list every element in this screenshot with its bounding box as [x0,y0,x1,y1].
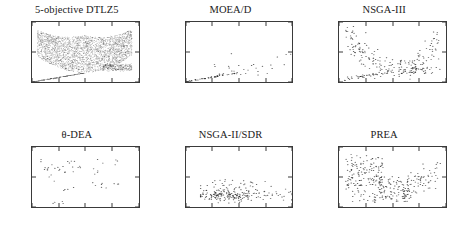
x-tick-mark [365,78,366,82]
x-tick-mark-top [212,147,213,151]
x-tick-mark [185,203,186,207]
scatter-series-theta-dea [32,147,139,207]
x-tick-mark [339,203,340,207]
x-tick-mark-top [419,22,420,26]
x-tick-mark [212,78,213,82]
x-tick-mark [212,203,213,207]
x-tick-mark [446,78,447,82]
x-tick-mark-top [238,147,239,151]
y-tick-mark-right [135,52,139,53]
x-tick-mark [185,78,186,82]
x-tick-mark [265,203,266,207]
plot-panel-theta-dea: θ-DEA 02400.20.40.60.8f1f4 [0,125,154,250]
y-tick-mark [339,82,343,83]
x-tick-mark-top [111,147,112,151]
y-tick-mark [339,177,343,178]
plot-axes-dtlz5-reference: 02400.20.40.60.8f1f4 [31,21,140,83]
y-tick-mark-right [288,52,292,53]
plot-panel-prea: PREA 02400.20.40.60.8f1f4 [307,125,461,250]
plot-axes-moead: 02400.20.40.60.8f1f4 [185,21,294,83]
x-tick-mark-top [85,147,86,151]
x-tick-mark-top [32,147,33,151]
plot-panel-nsga2-sdr: NSGA-II/SDR 02400.20.40.60.8f1f4 [154,125,308,250]
x-tick-mark [292,78,293,82]
panel-title-dtlz5-reference: 5-objective DTLZ5 [0,4,154,15]
x-tick-mark [419,203,420,207]
y-tick-mark [339,207,343,208]
scatter-canvas-dtlz5-reference [32,22,139,82]
x-tick-mark-top [419,147,420,151]
panel-title-moead: MOEA/D [154,4,308,15]
plot-axes-nsga2-sdr: 02400.20.40.60.8f1f4 [185,146,294,208]
scatter-series-moead [186,22,293,82]
x-tick-mark-top [265,147,266,151]
y-tick-mark [339,22,343,23]
x-tick-mark-top [392,22,393,26]
x-tick-mark-top [185,22,186,26]
x-tick-mark [32,78,33,82]
panel-title-nsga2-sdr: NSGA-II/SDR [154,129,308,140]
panel-title-nsga3: NSGA-III [307,4,461,15]
y-tick-mark [186,22,190,23]
plot-panel-dtlz5-reference: 5-objective DTLZ5 02400.20.40.60.8f1f4 [0,0,154,125]
y-tick-mark [32,82,36,83]
x-tick-mark [85,78,86,82]
x-tick-mark [292,203,293,207]
scatter-series-dtlz5-reference [32,22,139,82]
x-tick-mark-top [365,22,366,26]
x-tick-mark [238,78,239,82]
plot-panel-moead: MOEA/D 02400.20.40.60.8f1f4 [154,0,308,125]
x-tick-mark [58,203,59,207]
scatter-series-nsga2-sdr [186,147,293,207]
x-tick-mark [85,203,86,207]
y-tick-mark-right [442,52,446,53]
x-tick-mark [446,203,447,207]
x-tick-mark [392,203,393,207]
x-tick-mark [238,203,239,207]
x-tick-mark [138,203,139,207]
scatter-canvas-nsga2-sdr [186,147,293,207]
x-tick-mark-top [138,147,139,151]
scatter-canvas-prea [339,147,446,207]
x-tick-mark-top [212,22,213,26]
x-tick-mark-top [265,22,266,26]
x-tick-mark-top [365,147,366,151]
y-tick-mark [32,52,36,53]
x-tick-mark-top [392,147,393,151]
y-tick-mark [186,177,190,178]
y-tick-mark [186,147,190,148]
x-tick-mark [365,203,366,207]
x-tick-mark-top [238,22,239,26]
y-tick-mark [32,22,36,23]
x-tick-mark [111,203,112,207]
scatter-canvas-theta-dea [32,147,139,207]
scatter-canvas-moead [186,22,293,82]
x-tick-mark-top [292,22,293,26]
x-tick-mark-top [339,147,340,151]
x-tick-mark [265,78,266,82]
x-tick-mark-top [446,147,447,151]
y-tick-mark [186,207,190,208]
x-tick-mark [339,78,340,82]
x-tick-mark-top [32,22,33,26]
y-tick-mark [32,147,36,148]
y-tick-mark [32,177,36,178]
x-tick-mark [58,78,59,82]
x-tick-mark-top [58,147,59,151]
x-tick-mark-top [292,147,293,151]
figure-panel-grid: 5-objective DTLZ5 02400.20.40.60.8f1f4 M… [0,0,461,250]
x-tick-mark-top [58,22,59,26]
scatter-canvas-nsga3 [339,22,446,82]
x-tick-mark [32,203,33,207]
x-tick-mark-top [111,22,112,26]
x-tick-mark-top [85,22,86,26]
panel-title-prea: PREA [307,129,461,140]
y-tick-mark [339,147,343,148]
x-tick-mark [419,78,420,82]
plot-axes-nsga3: 02400.20.40.60.8f1f4 [338,21,447,83]
y-tick-mark [186,52,190,53]
x-tick-mark-top [138,22,139,26]
panel-title-theta-dea: θ-DEA [0,129,154,140]
y-tick-mark-right [288,177,292,178]
plot-axes-prea: 02400.20.40.60.8f1f4 [338,146,447,208]
